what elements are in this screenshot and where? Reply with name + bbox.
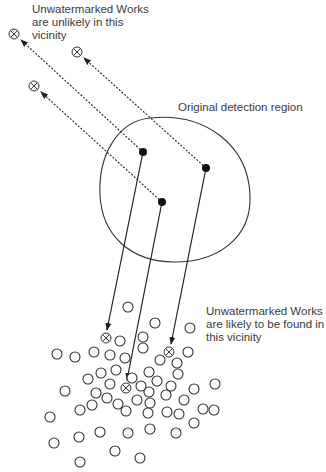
open-circle-icon <box>115 336 125 346</box>
crossed-circle-icon <box>9 29 19 39</box>
dashed-arrow <box>41 92 162 202</box>
open-circle-icon <box>49 438 59 448</box>
filled-dot-icon <box>158 198 166 206</box>
open-circle-icon <box>132 395 142 405</box>
open-circle-icon <box>189 418 199 428</box>
filled-dot-icon <box>139 148 147 156</box>
open-circle-icon <box>173 369 183 379</box>
dashed-arrows <box>21 40 206 202</box>
open-circle-icon <box>152 376 162 386</box>
open-circle-icon <box>145 398 155 408</box>
open-circle-icon <box>183 347 193 357</box>
open-circle-icon <box>174 409 184 419</box>
open-circle-icon <box>96 368 106 378</box>
open-circle-icon <box>210 379 220 389</box>
random-works-cluster <box>45 302 220 467</box>
open-circle-icon <box>75 405 85 415</box>
open-circle-icon <box>209 405 219 415</box>
open-circle-icon <box>75 457 85 467</box>
open-circle-icon <box>121 406 131 416</box>
dashed-arrow <box>21 40 143 152</box>
open-circle-icon <box>83 374 93 384</box>
open-circle-icon <box>102 393 112 403</box>
watermarked-points <box>139 148 210 206</box>
open-circle-icon <box>136 381 146 391</box>
open-circle-icon <box>111 365 121 375</box>
open-circle-icon <box>89 347 99 357</box>
crossed-circle-icon <box>164 347 174 357</box>
open-circle-icon <box>161 390 171 400</box>
open-circle-icon <box>120 353 130 363</box>
open-circle-icon <box>70 352 80 362</box>
crossed-circle-icon <box>101 333 111 343</box>
open-circle-icon <box>105 350 115 360</box>
open-circle-icon <box>138 332 148 342</box>
open-circle-icon <box>45 412 55 422</box>
open-circle-icon <box>113 399 123 409</box>
open-circle-icon <box>91 388 101 398</box>
open-circle-icon <box>150 318 160 328</box>
likely-vicinity-label: Unwatermarked Works are likely to be fou… <box>206 305 324 344</box>
open-circle-icon <box>189 384 199 394</box>
filled-dot-icon <box>202 164 210 172</box>
detection-region-outline <box>100 117 250 262</box>
open-circle-icon <box>143 408 153 418</box>
open-circle-icon <box>74 432 84 442</box>
open-circle-icon <box>162 407 172 417</box>
open-circle-icon <box>171 428 181 438</box>
open-circle-icon <box>185 323 195 333</box>
open-circle-icon <box>179 395 189 405</box>
open-circle-icon <box>135 453 145 463</box>
solid-arrow <box>171 168 206 344</box>
open-circle-icon <box>127 373 137 383</box>
open-circle-icon <box>138 343 148 353</box>
open-circle-icon <box>145 424 155 434</box>
open-circle-icon <box>144 367 154 377</box>
detection-diagram <box>0 0 326 472</box>
open-circle-icon <box>87 400 97 410</box>
open-circle-icon <box>123 428 133 438</box>
open-circle-icon <box>172 358 182 368</box>
crossed-circle-icon <box>121 383 131 393</box>
open-circle-icon <box>198 404 208 414</box>
open-circle-icon <box>52 349 62 359</box>
open-circle-icon <box>123 302 133 312</box>
open-circle-icon <box>110 446 120 456</box>
open-circle-icon <box>60 386 70 396</box>
crossed-circle-icon <box>29 81 39 91</box>
unlikely-vicinity-label: Unwatermarked Works are unlikely in this… <box>32 3 149 42</box>
detection-region-label: Original detection region <box>178 101 303 114</box>
crossed-circle-icon <box>72 47 82 57</box>
open-circle-icon <box>166 381 176 391</box>
open-circle-icon <box>105 379 115 389</box>
open-circle-icon <box>155 355 165 365</box>
open-circle-icon <box>95 427 105 437</box>
